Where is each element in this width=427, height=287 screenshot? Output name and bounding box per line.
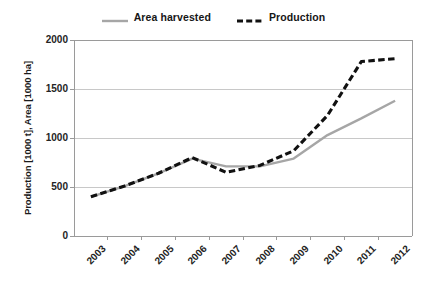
x-axis-tick-labels: 2003200420052006200720082009201020112012 (0, 0, 427, 287)
chart-figure: Area harvested Production Production [10… (0, 0, 427, 287)
